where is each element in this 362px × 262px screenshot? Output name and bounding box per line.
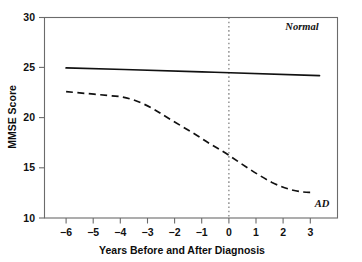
y-tick-label-30: 30	[23, 11, 35, 23]
x-tick-label-0: 0	[226, 226, 232, 238]
x-tick-label--4: −4	[114, 226, 126, 238]
y-tick-label-20: 20	[23, 111, 35, 123]
chart-canvas: 10 15 20 25 30 −6 −5 −4 −3 −2 −1	[0, 0, 362, 262]
series-label-ad: AD	[314, 198, 330, 209]
x-tick-label--5: −5	[87, 226, 99, 238]
x-tick-label--1: −1	[196, 226, 208, 238]
x-tick-label--2: −2	[169, 226, 181, 238]
x-tick-label-1: 1	[253, 226, 259, 238]
figure-background	[0, 0, 362, 262]
x-tick-label-3: 3	[307, 226, 313, 238]
x-tick-label--3: −3	[142, 226, 154, 238]
x-tick-label--6: −6	[60, 226, 72, 238]
y-tick-label-10: 10	[23, 212, 35, 224]
y-axis-title: MMSE Score	[6, 85, 18, 149]
x-axis-title: Years Before and After Diagnosis	[99, 244, 265, 256]
series-label-normal: Normal	[284, 21, 318, 32]
y-tick-label-15: 15	[23, 161, 35, 173]
x-tick-label-2: 2	[280, 226, 286, 238]
chart-figure: 10 15 20 25 30 −6 −5 −4 −3 −2 −1	[0, 0, 362, 262]
y-tick-label-25: 25	[23, 61, 35, 73]
